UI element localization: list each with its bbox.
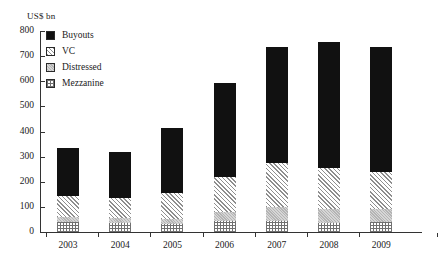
bar-segment-vc-2006 (214, 177, 236, 212)
x-axis-tick-mark (255, 233, 256, 237)
bar-segment-distressed-2007 (266, 207, 288, 221)
y-axis-tick-label: 800 (8, 26, 34, 36)
legend-label: Buyouts (62, 30, 94, 41)
legend-swatch-buyouts-icon (46, 31, 55, 40)
y-axis-tick-mark (41, 132, 45, 133)
bar-segment-buyouts-2007 (266, 47, 288, 163)
bar-segment-distressed-2008 (318, 209, 340, 223)
legend-swatch-distressed-icon (46, 63, 55, 72)
x-axis-tick-mark (98, 233, 99, 237)
x-axis-tick-mark (150, 233, 151, 237)
y-axis-tick-label: 400 (8, 127, 34, 137)
legend-label: VC (62, 46, 75, 57)
x-axis-tick-label-2004: 2004 (98, 240, 142, 250)
x-axis-tick-label-2007: 2007 (255, 240, 299, 250)
bar-segment-mezzanine-2009 (370, 222, 392, 232)
y-axis-tick-mark (41, 56, 45, 57)
bar-2006 (214, 83, 236, 232)
bar-segment-buyouts-2005 (161, 128, 183, 193)
legend-label: Mezzanine (62, 78, 104, 89)
bar-segment-vc-2005 (161, 193, 183, 219)
y-axis-tick-label: 0 (8, 227, 34, 237)
y-axis-tick-label: 200 (8, 177, 34, 187)
bar-2009 (370, 47, 392, 232)
x-axis-tick-label-2003: 2003 (46, 240, 90, 250)
legend-swatch-vc-icon (46, 47, 55, 56)
bar-segment-mezzanine-2005 (161, 224, 183, 232)
bar-segment-mezzanine-2003 (57, 222, 79, 232)
x-axis-tick-mark (203, 233, 204, 237)
y-axis-tick-mark (41, 157, 45, 158)
y-axis-tick-label: 500 (8, 101, 34, 111)
x-axis-tick-label-2009: 2009 (359, 240, 403, 250)
y-axis-tick-label: 300 (8, 152, 34, 162)
bar-segment-distressed-2006 (214, 212, 236, 221)
y-axis-unit-label: US$ bn (27, 11, 55, 21)
stacked-bar-chart: US$ bn 0100200300400500600700800 2003200… (0, 0, 442, 262)
bar-segment-distressed-2009 (370, 209, 392, 222)
bar-2007 (266, 47, 288, 232)
bar-2005 (161, 128, 183, 232)
bar-2004 (109, 152, 131, 232)
y-axis-tick-mark (41, 81, 45, 82)
x-axis-tick-mark (307, 233, 308, 237)
y-axis-tick-mark (41, 31, 45, 32)
bar-segment-buyouts-2009 (370, 47, 392, 171)
bar-segment-vc-2008 (318, 168, 340, 209)
y-axis-tick-label: 700 (8, 51, 34, 61)
x-axis-tick-label-2005: 2005 (150, 240, 194, 250)
y-axis-tick-mark (41, 207, 45, 208)
bar-segment-buyouts-2003 (57, 148, 79, 196)
bar-segment-buyouts-2008 (318, 42, 340, 168)
bar-segment-mezzanine-2007 (266, 221, 288, 232)
y-axis-tick-label: 100 (8, 202, 34, 212)
x-axis-tick-mark (359, 233, 360, 237)
bar-segment-vc-2003 (57, 196, 79, 217)
x-axis-tick-mark (437, 233, 438, 237)
bar-segment-mezzanine-2008 (318, 223, 340, 232)
legend-label: Distressed (62, 62, 102, 73)
x-axis-tick-label-2008: 2008 (307, 240, 351, 250)
bar-segment-buyouts-2004 (109, 152, 131, 198)
bar-segment-vc-2009 (370, 172, 392, 210)
x-axis-tick-label-2006: 2006 (203, 240, 247, 250)
legend-swatch-mezzanine-icon (46, 79, 55, 88)
bar-segment-vc-2004 (109, 198, 131, 218)
y-axis-tick-mark (41, 232, 45, 233)
y-axis-tick-label: 600 (8, 76, 34, 86)
y-axis-tick-mark (41, 106, 45, 107)
x-axis-tick-mark (46, 233, 47, 237)
bar-2008 (318, 42, 340, 232)
bar-segment-mezzanine-2006 (214, 221, 236, 232)
bar-segment-buyouts-2006 (214, 83, 236, 177)
bar-segment-mezzanine-2004 (109, 223, 131, 232)
bar-2003 (57, 148, 79, 232)
bar-segment-vc-2007 (266, 163, 288, 207)
y-axis-tick-mark (41, 182, 45, 183)
